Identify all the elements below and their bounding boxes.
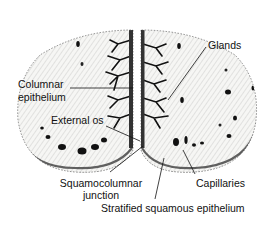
columnar-epithelium-label-line1: Columnar [18,79,64,90]
right-cervix-half [139,30,262,182]
stratified-squamous-epithelium-label: Stratified squamous epithelium [101,203,245,214]
squamocolumnar-junction-label-line1: Squamocolumnar [56,178,146,189]
capillaries-label: Capillaries [196,178,245,189]
left-cervix-half [12,30,135,182]
glands-label: Glands [208,40,241,51]
squamocolumnar-junction-label-line2: junction [56,190,146,201]
external-os-label: External os [51,115,104,126]
columnar-epithelium-label-line2: epithelium [18,92,66,103]
